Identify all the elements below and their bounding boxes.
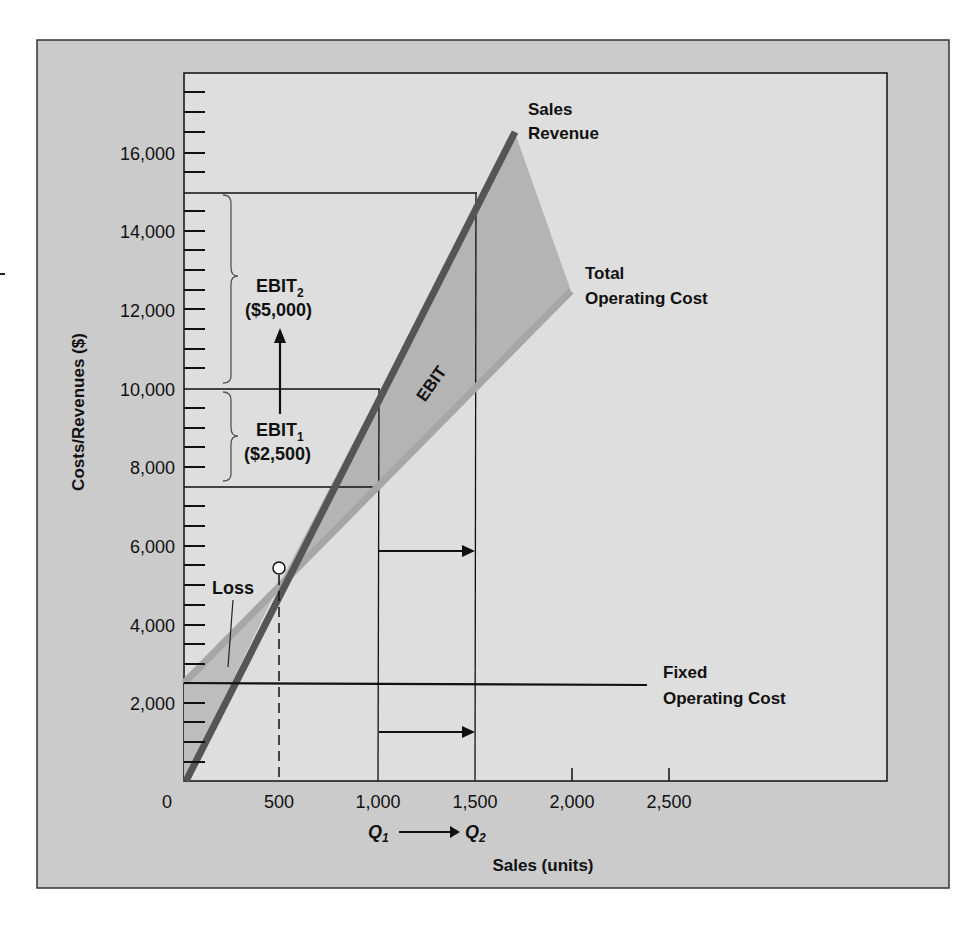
x-tick-label: 0 <box>162 792 172 812</box>
x-tick-label: 2,500 <box>646 792 691 812</box>
y-tick-label: 4,000 <box>130 616 175 636</box>
y-tick-label: 6,000 <box>130 537 175 557</box>
x-tick-label: 1,500 <box>452 792 497 812</box>
y-tick-label: 8,000 <box>130 458 175 478</box>
total-cost-label: Operating Cost <box>585 289 708 308</box>
fixed-cost-label: Operating Cost <box>663 689 786 708</box>
y-tick-label: 14,000 <box>120 222 175 242</box>
x-tick-label: 2,000 <box>549 792 594 812</box>
ebit1-value: ($2,500) <box>244 444 311 464</box>
x-axis-title: Sales (units) <box>492 856 593 875</box>
y-tick-label: 2,000 <box>130 694 175 714</box>
ebit2-value: ($5,000) <box>245 300 312 320</box>
total-cost-label: Total <box>585 264 624 283</box>
y-tick-label: 10,000 <box>120 380 175 400</box>
y-tick-label: 16,000 <box>120 144 175 164</box>
sales-revenue-label: Sales <box>528 100 572 119</box>
x-tick-label: 1,000 <box>355 792 400 812</box>
x-tick-label: 500 <box>264 792 294 812</box>
break-even-chart: 16,000 14,000 12,000 10,000 8,000 6,000 … <box>0 0 964 931</box>
break-even-point-marker <box>273 562 285 574</box>
fixed-cost-label: Fixed <box>663 663 707 682</box>
sales-revenue-label: Revenue <box>528 124 599 143</box>
loss-label: Loss <box>212 578 254 598</box>
y-tick-label: 12,000 <box>120 301 175 321</box>
y-axis-title: Costs/Revenues ($) <box>69 333 88 491</box>
